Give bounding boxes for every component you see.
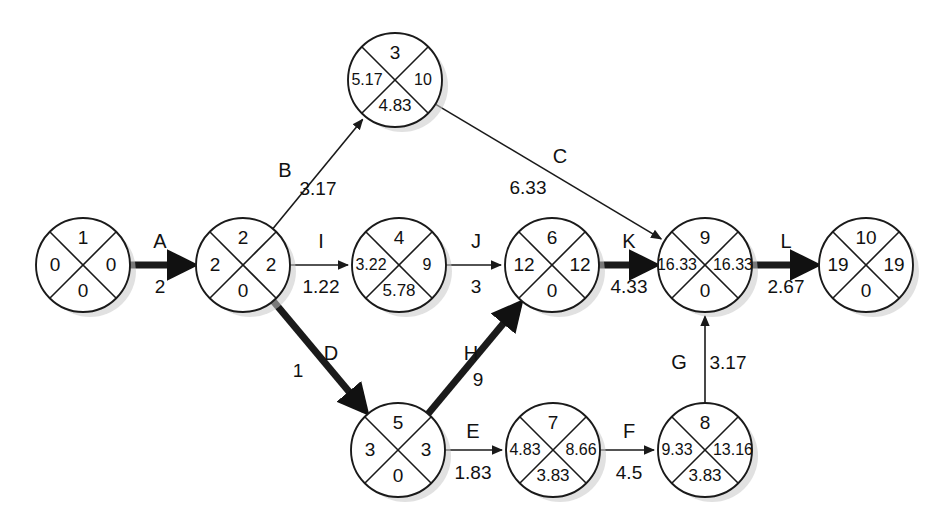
node-10-event-number: 10 [855,227,876,248]
activity-l-name: L [780,230,791,252]
event-node-4[interactable]: 43.2295.78 [352,218,452,317]
node-10-earliest-time: 19 [827,254,848,275]
activity-g-name: G [671,351,687,373]
node-3-slack: 4.83 [378,96,411,115]
activity-g-duration: 3.17 [710,352,747,373]
activity-l-duration: 2.67 [768,276,805,297]
node-1-latest-time: 0 [106,254,117,275]
node-9-event-number: 9 [700,227,711,248]
activity-e-name: E [466,420,479,442]
node-7-event-number: 7 [548,412,559,433]
activity-a-duration: 2 [155,276,166,297]
node-1-earliest-time: 0 [50,254,61,275]
node-4-event-number: 4 [394,227,405,248]
node-5-slack: 0 [393,465,404,486]
edge-label-g: G3.17 [671,351,746,373]
activity-h-name: H [464,342,478,364]
node-1-event-number: 1 [78,227,89,248]
node-3-latest-time: 10 [414,71,432,88]
node-6-event-number: 6 [547,227,558,248]
activity-h-duration: 9 [473,369,484,390]
edge-label-b: B3.17 [278,159,336,199]
node-8-event-number: 8 [700,412,711,433]
activity-b-duration: 3.17 [300,178,337,199]
edge-d [273,301,364,410]
node-7-latest-time: 8.66 [565,441,596,458]
edge-label-f: F4.5 [616,420,642,483]
event-node-3[interactable]: 35.17104.83 [348,33,448,132]
node-4-latest-time: 9 [423,256,432,273]
node-4-earliest-time: 3.22 [355,256,386,273]
edge-label-j: J3 [471,230,482,297]
node-5-earliest-time: 3 [365,439,376,460]
node-7-earliest-time: 4.83 [509,441,540,458]
node-8-earliest-time: 9.33 [661,441,692,458]
activity-f-name: F [623,420,635,442]
event-node-1[interactable]: 1000 [36,218,136,317]
activity-c-name: C [553,145,567,167]
node-4-slack: 5.78 [382,281,415,300]
event-node-8[interactable]: 89.3313.163.83 [658,403,758,502]
node-6-latest-time: 12 [569,254,590,275]
activity-j-name: J [471,230,481,252]
node-10-latest-time: 19 [883,254,904,275]
event-node-9[interactable]: 916.3316.330 [657,218,758,317]
edge-label-i: I1.22 [303,230,340,297]
edge-label-e: E1.83 [455,420,492,483]
node-9-earliest-time: 16.33 [657,256,697,273]
event-node-5[interactable]: 5330 [351,403,451,502]
event-node-2[interactable]: 2220 [196,218,296,317]
activity-d-duration: 1 [293,360,304,381]
activity-k-duration: 4.33 [611,276,648,297]
node-3-event-number: 3 [390,42,401,63]
node-2-event-number: 2 [238,227,249,248]
node-5-latest-time: 3 [421,439,432,460]
activity-b-name: B [278,159,291,181]
node-8-slack: 3.83 [688,466,721,485]
activity-e-duration: 1.83 [455,462,492,483]
activity-i-name: I [318,230,324,252]
node-7-slack: 3.83 [536,466,569,485]
activity-f-duration: 4.5 [616,462,642,483]
node-6-earliest-time: 12 [513,254,534,275]
network-diagram-canvas: 1000222035.17104.8343.2295.7853306121207… [0,0,949,508]
event-node-10[interactable]: 1019190 [819,218,919,317]
node-2-slack: 0 [238,280,249,301]
activity-i-duration: 1.22 [303,276,340,297]
activity-j-duration: 3 [471,276,482,297]
network-diagram-svg: 1000222035.17104.8343.2295.7853306121207… [0,0,949,508]
activity-d-name: D [324,342,338,364]
event-node-6[interactable]: 612120 [505,218,605,317]
activity-a-name: A [153,230,167,252]
node-10-slack: 0 [861,280,872,301]
node-3-earliest-time: 5.17 [351,71,382,88]
node-2-latest-time: 2 [266,254,277,275]
node-9-latest-time: 16.33 [713,256,753,273]
node-8-latest-time: 13.16 [713,441,753,458]
node-2-earliest-time: 2 [210,254,221,275]
node-1-slack: 0 [78,280,89,301]
event-node-7[interactable]: 74.838.663.83 [506,403,606,502]
node-6-slack: 0 [547,280,558,301]
node-9-slack: 0 [700,280,711,301]
activity-c-duration: 6.33 [510,177,547,198]
node-5-event-number: 5 [393,412,404,433]
activity-k-name: K [622,230,636,252]
